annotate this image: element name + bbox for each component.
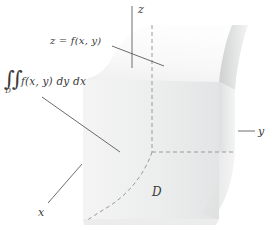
x-axis: [48, 164, 82, 203]
y-axis-label: y: [258, 126, 264, 137]
z-axis-label: z: [138, 4, 144, 15]
right-surface-middle: [219, 82, 235, 152]
integral-signs-group: ∫∫ D: [4, 70, 20, 95]
x-axis-label: x: [38, 207, 44, 218]
surface-equation-label: z = f(x, y): [50, 36, 101, 46]
integral-integrand: f(x, y) dy dx: [21, 75, 86, 87]
top-surface: [83, 25, 232, 82]
integral-subscript: D: [5, 87, 11, 95]
base-strip: [83, 219, 219, 225]
figure-canvas: [0, 0, 272, 230]
double-integral-label: ∫∫ D f(x, y) dy dx: [4, 70, 86, 95]
region-d-label: D: [152, 186, 162, 198]
front-face: [83, 79, 219, 219]
volume-integral-figure: z y x D z = f(x, y) ∫∫ D f(x, y) dy dx: [0, 0, 272, 230]
